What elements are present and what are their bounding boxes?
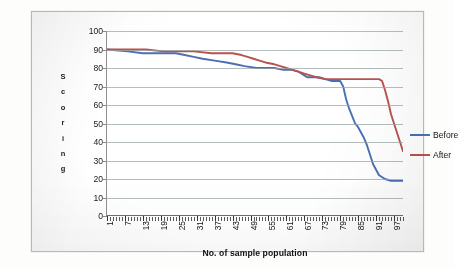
- gridline: [107, 142, 403, 143]
- y-tick-label: 70: [93, 82, 103, 91]
- x-axis-title: No. of sample population: [107, 248, 403, 258]
- x-tick-label: 97: [392, 221, 402, 230]
- chart-legend: Before After: [410, 125, 462, 165]
- y-tick-mark: [103, 198, 107, 199]
- y-axis-title-letter-6: g: [61, 161, 66, 176]
- y-tick-label: 100: [89, 27, 103, 36]
- x-axis-tick-labels: 17131925313743495561677379859197: [107, 221, 403, 245]
- y-tick-label: 60: [93, 101, 103, 110]
- gridline: [107, 161, 403, 162]
- gridline: [107, 179, 403, 180]
- x-tick-label: 1: [105, 221, 115, 226]
- y-tick-label: 40: [93, 138, 103, 147]
- x-tick-label: 85: [356, 221, 366, 230]
- y-axis-tick-labels: 1009080706050403020100: [76, 26, 103, 216]
- y-axis-title-letter-3: r: [62, 115, 65, 130]
- legend-item-after[interactable]: After: [410, 145, 462, 165]
- y-tick-mark: [103, 87, 107, 88]
- y-axis-title-letter-5: n: [61, 146, 66, 161]
- gridline: [107, 50, 403, 51]
- y-tick-label: 30: [93, 156, 103, 165]
- legend-item-before[interactable]: Before: [410, 125, 462, 145]
- y-tick-mark: [103, 124, 107, 125]
- gridline: [107, 31, 403, 32]
- y-tick-mark: [103, 161, 107, 162]
- x-tick-label: 37: [213, 221, 223, 230]
- y-axis-title: Scoring: [56, 69, 70, 177]
- y-tick-label: 80: [93, 64, 103, 73]
- gridline: [107, 68, 403, 69]
- legend-swatch-before: [410, 134, 430, 136]
- y-axis-title-letter-4: i: [62, 131, 64, 146]
- y-tick-mark: [103, 68, 107, 69]
- x-tick-label: 19: [159, 221, 169, 230]
- y-tick-label: 10: [93, 193, 103, 202]
- x-tick-label: 73: [320, 221, 330, 230]
- x-tick-label: 7: [123, 221, 133, 226]
- y-tick-mark: [103, 179, 107, 180]
- y-tick-mark: [103, 50, 107, 51]
- x-tick-label: 31: [195, 221, 205, 230]
- y-tick-mark: [103, 142, 107, 143]
- y-tick-label: 50: [93, 119, 103, 128]
- x-tick-label: 13: [141, 221, 151, 230]
- y-tick-label: 20: [93, 175, 103, 184]
- plot-area: [107, 31, 403, 216]
- x-tick-label: 91: [374, 221, 384, 230]
- legend-label-after: After: [433, 150, 451, 160]
- y-tick-label: 90: [93, 45, 103, 54]
- y-axis-title-letter-1: c: [61, 84, 65, 99]
- gridline: [107, 124, 403, 125]
- x-tick-label: 55: [267, 221, 277, 230]
- gridline: [107, 87, 403, 88]
- x-tick-label: 67: [303, 221, 313, 230]
- x-tick-label: 61: [285, 221, 295, 230]
- x-tick-label: 79: [338, 221, 348, 230]
- gridline: [107, 105, 403, 106]
- x-minor-tick: [403, 217, 404, 221]
- series-line-after: [107, 50, 403, 152]
- y-axis-title-letter-2: o: [61, 100, 66, 115]
- y-tick-mark: [103, 31, 107, 32]
- x-tick-label: 25: [177, 221, 187, 230]
- chart-frame: Scoring 1009080706050403020100 171319253…: [31, 11, 424, 252]
- y-tick-mark: [103, 105, 107, 106]
- x-tick-label: 49: [249, 221, 259, 230]
- legend-label-before: Before: [433, 130, 458, 140]
- gridline: [107, 198, 403, 199]
- x-tick-label: 43: [231, 221, 241, 230]
- legend-swatch-after: [410, 154, 430, 156]
- y-axis-title-letter-0: S: [60, 69, 65, 84]
